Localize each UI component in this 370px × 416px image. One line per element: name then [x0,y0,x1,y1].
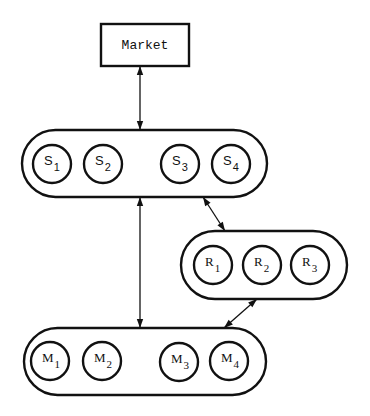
node-M4: M4 [210,342,248,380]
market-node: Market [101,24,189,66]
market-structure-diagram: Market S1S2S3S4R1R2R3M1M2M3M4 [0,0,370,416]
market-label: Market [122,38,169,53]
node-S2: S2 [84,145,122,183]
node-R2: R2 [243,246,281,284]
link-R-M [224,299,257,328]
group-R: R1R2R3 [181,231,347,299]
link-market-S [137,66,143,130]
arrowhead-icon [137,66,143,75]
arrowhead-icon [203,197,211,206]
arrowhead-icon [137,319,143,328]
node-S4: S4 [212,145,250,183]
group-layer: S1S2S3S4R1R2R3M1M2M3M4 [22,130,347,395]
node-M2: M2 [83,342,121,380]
node-M1: M1 [31,342,69,380]
arrowhead-icon [137,121,143,130]
node-R1: R1 [194,246,232,284]
link-S-R [203,197,225,231]
arrowhead-icon [137,197,143,206]
link-S-M [137,197,143,328]
group-S: S1S2S3S4 [22,130,267,197]
node-R3: R3 [291,246,329,284]
group-M: M1M2M3M4 [24,328,266,395]
node-S1: S1 [33,145,71,183]
arrowhead-icon [217,222,225,231]
node-M3: M3 [160,343,198,381]
node-S3: S3 [161,145,199,183]
